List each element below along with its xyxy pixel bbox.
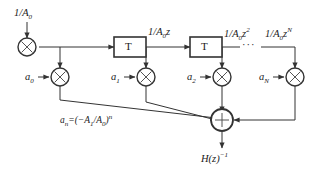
- coefficient-label-n: aN: [259, 72, 269, 85]
- multiplier-node-tap-2: [213, 68, 231, 86]
- tap-n-signal-label: 1/A0zN: [265, 27, 292, 42]
- multiplier-node-input: [18, 38, 36, 56]
- input-signal-label: 1/A0: [14, 8, 32, 21]
- multiplier-node-tap-1: [137, 68, 155, 86]
- delay-block-1-label: T: [125, 41, 132, 52]
- delay-block-2-label: T: [201, 41, 208, 52]
- multiplier-node-tap-0: [51, 68, 69, 86]
- coefficient-label-2: a2: [187, 72, 196, 85]
- ellipsis-label: ···: [242, 40, 256, 51]
- signal-flow-diagram: 1/A0 T T 1/A0z 1/A0z2 1/A0zN ··· a0 a1 a…: [0, 0, 323, 173]
- wire-tapn-to-adder: [234, 86, 295, 120]
- tap-1-signal-label: 1/A0z: [148, 27, 170, 40]
- coefficient-formula: an=(−A1/A0)n: [60, 114, 112, 128]
- wire-tap1-to-adder: [146, 86, 216, 120]
- summing-junction: [211, 109, 233, 131]
- coefficient-label-1: a1: [111, 72, 120, 85]
- multiplier-node-tap-n: [286, 68, 304, 86]
- output-signal-label: H(z)−1: [201, 152, 228, 164]
- coefficient-label-0: a0: [25, 72, 34, 85]
